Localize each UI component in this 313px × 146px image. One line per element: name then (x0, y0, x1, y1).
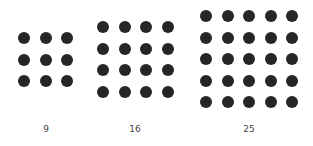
dot (40, 32, 52, 44)
dot (265, 53, 277, 65)
dot (18, 54, 30, 66)
grid-count-label: 25 (243, 124, 254, 134)
dot (119, 64, 131, 76)
dot (265, 75, 277, 87)
dot (286, 96, 298, 108)
dot (222, 53, 234, 65)
dot (61, 32, 73, 44)
dot (286, 10, 298, 22)
dot (119, 43, 131, 55)
dot (200, 10, 212, 22)
dot (97, 43, 109, 55)
dot (140, 86, 152, 98)
dot (162, 43, 174, 55)
dot (97, 86, 109, 98)
grid-count-label: 16 (129, 124, 140, 134)
dot (265, 96, 277, 108)
dot (200, 53, 212, 65)
dot (243, 32, 255, 44)
dot (286, 32, 298, 44)
dot (119, 21, 131, 33)
dot (97, 21, 109, 33)
dot (162, 86, 174, 98)
dot (140, 64, 152, 76)
dot (119, 86, 131, 98)
grid-count-label: 9 (43, 124, 49, 134)
dot (265, 10, 277, 22)
dot (61, 75, 73, 87)
dot (200, 75, 212, 87)
dot (97, 64, 109, 76)
dot (140, 43, 152, 55)
dot (222, 10, 234, 22)
dot (222, 32, 234, 44)
dot (286, 53, 298, 65)
dot (61, 54, 73, 66)
dot (222, 96, 234, 108)
dot (243, 75, 255, 87)
dot (140, 21, 152, 33)
dot (40, 75, 52, 87)
dot (243, 96, 255, 108)
dot (265, 32, 277, 44)
dot (162, 21, 174, 33)
dot (222, 75, 234, 87)
dot (200, 96, 212, 108)
dot (200, 32, 212, 44)
dot (286, 75, 298, 87)
dot (18, 32, 30, 44)
dot (18, 75, 30, 87)
dot (243, 10, 255, 22)
dot (162, 64, 174, 76)
dot (243, 53, 255, 65)
dot (40, 54, 52, 66)
